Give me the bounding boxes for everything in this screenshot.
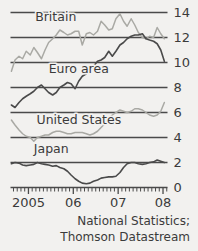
- series-label-united-states: United States: [37, 112, 122, 127]
- x-tick-label-07: 07: [110, 195, 127, 210]
- y-tick-label-2: 2: [174, 155, 182, 170]
- y-tick-label-0: 0: [174, 180, 182, 195]
- y-tick-label-14: 14: [174, 5, 191, 20]
- y-tick-label-6: 6: [174, 105, 182, 120]
- x-tick-label-06: 06: [65, 195, 82, 210]
- x-tick-label-08: 08: [155, 195, 172, 210]
- x-tick-label-2005: 2005: [12, 195, 45, 210]
- series-label-euro-area: Euro area: [49, 61, 109, 76]
- y-tick-label-4: 4: [174, 130, 182, 145]
- line-chart-canvas: 02468101214 2005060708 BritainBritainEur…: [0, 0, 198, 251]
- y-tick-label-12: 12: [174, 30, 191, 45]
- source-line-2: Thomson Datastream: [59, 230, 190, 244]
- series-label-britain: Britain: [35, 9, 76, 24]
- series-label-japan: Japan: [33, 141, 69, 156]
- chart-figure: 02468101214 2005060708 BritainBritainEur…: [0, 0, 198, 251]
- y-tick-label-10: 10: [174, 55, 191, 70]
- source-line-1: National Statistics;: [77, 214, 190, 228]
- y-tick-label-8: 8: [174, 80, 182, 95]
